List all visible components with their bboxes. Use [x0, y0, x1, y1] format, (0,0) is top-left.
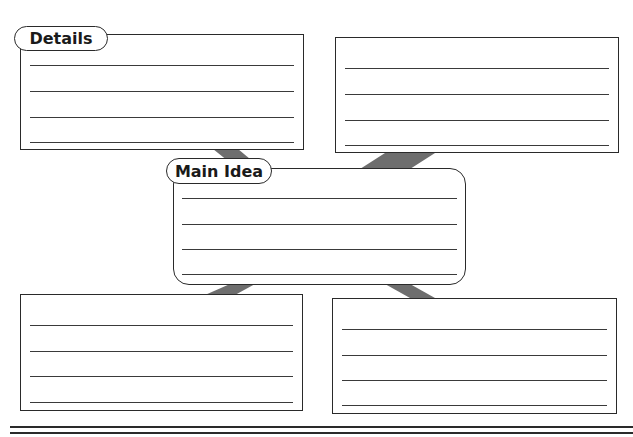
writing-line[interactable]: [182, 198, 457, 199]
connector-bottom-right: [385, 284, 435, 298]
writing-line[interactable]: [182, 274, 457, 275]
details-box-top-left: [20, 34, 304, 150]
writing-line[interactable]: [30, 117, 294, 118]
writing-line[interactable]: [342, 380, 607, 381]
writing-line[interactable]: [182, 249, 457, 250]
writing-line[interactable]: [182, 224, 457, 225]
main-idea-label: Main Idea: [166, 158, 272, 184]
writing-line[interactable]: [30, 91, 294, 92]
writing-line[interactable]: [345, 120, 609, 121]
writing-line[interactable]: [30, 65, 294, 66]
details-box-bottom-left: [20, 294, 303, 411]
writing-line[interactable]: [30, 376, 293, 377]
details-label: Details: [14, 26, 108, 51]
writing-line[interactable]: [345, 145, 609, 146]
writing-line[interactable]: [342, 355, 607, 356]
page-rule-top: [10, 426, 633, 428]
details-box-bottom-right: [332, 298, 617, 414]
writing-line[interactable]: [30, 325, 293, 326]
writing-line[interactable]: [342, 329, 607, 330]
writing-line[interactable]: [30, 351, 293, 352]
main-idea-label-text: Main Idea: [175, 162, 263, 181]
details-label-text: Details: [29, 29, 92, 48]
writing-line[interactable]: [30, 142, 294, 143]
connector-top-right: [360, 153, 435, 169]
writing-line[interactable]: [30, 402, 293, 403]
writing-line[interactable]: [345, 68, 609, 69]
page-rule-bottom: [10, 432, 633, 434]
details-box-top-right: [335, 37, 619, 153]
main-idea-box: [173, 168, 466, 285]
writing-line[interactable]: [345, 94, 609, 95]
writing-line[interactable]: [342, 405, 607, 406]
